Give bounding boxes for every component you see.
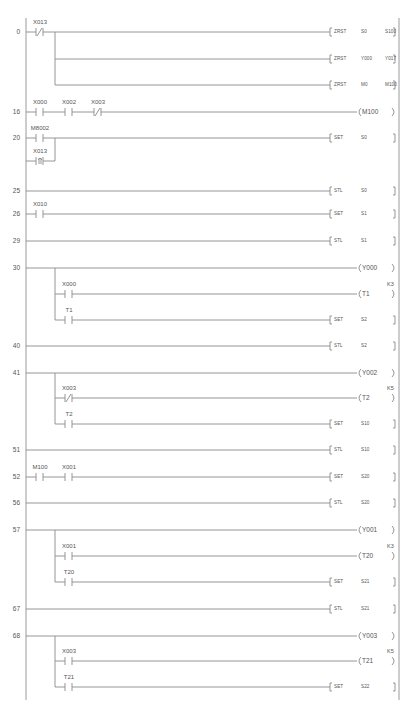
instruction-name: ZRST — [334, 82, 346, 87]
instruction-operand: S21 — [361, 606, 369, 611]
instruction-open-bracket-icon — [330, 28, 332, 36]
coil-close-paren-icon — [392, 526, 394, 534]
coil-open-paren-icon — [359, 264, 361, 272]
instruction-operand: S2 — [361, 317, 367, 322]
instruction-open-bracket-icon — [330, 342, 332, 350]
coil-operand: Y000 — [362, 264, 377, 271]
coil-operand: T1 — [362, 290, 370, 297]
contact-label: X003 — [62, 385, 76, 391]
instruction-operand: S100 — [385, 29, 396, 34]
contact-label: X003 — [91, 99, 105, 105]
step-number: 52 — [0, 473, 20, 480]
contact-m100-contact-icon — [36, 473, 43, 481]
contact-m8002-contact-icon — [36, 134, 43, 142]
contact-label: T1 — [65, 307, 72, 313]
instruction-operand: S1 — [361, 211, 367, 216]
contact-x001-contact-icon — [65, 552, 72, 560]
timer-constant: K5 — [387, 648, 394, 654]
instruction-close-bracket-icon — [393, 446, 395, 454]
contact-label: X013 — [33, 148, 47, 154]
ladder-diagram: 0X013ZRSTS0S100ZRSTY000Y017ZRSTM0M10016X… — [0, 0, 412, 715]
instruction-operand: S22 — [361, 684, 369, 689]
instruction-open-bracket-icon — [330, 499, 332, 507]
contact-label: X013 — [33, 19, 47, 25]
coil-open-paren-icon — [359, 290, 361, 298]
instruction-operand: S10 — [361, 447, 369, 452]
instruction-close-bracket-icon — [393, 237, 395, 245]
step-number: 56 — [0, 499, 20, 506]
contact-x013-pulse-arrow-icon — [38, 158, 42, 164]
contact-x003-nc-slash-icon — [95, 108, 100, 116]
instruction-open-bracket-icon — [330, 81, 332, 89]
timer-constant: K3 — [387, 281, 394, 287]
coil-operand: T21 — [362, 657, 373, 664]
instruction-name: SET — [334, 474, 343, 479]
contact-label: T20 — [64, 569, 74, 575]
coil-operand: Y002 — [362, 369, 377, 376]
coil-operand: T20 — [362, 552, 373, 559]
step-number: 0 — [0, 28, 20, 35]
instruction-close-bracket-icon — [393, 134, 395, 142]
instruction-name: STL — [334, 238, 343, 243]
contact-t2-contact-icon — [65, 420, 72, 428]
contact-label: M100 — [32, 464, 47, 470]
coil-close-paren-icon — [392, 632, 394, 640]
step-number: 51 — [0, 446, 20, 453]
contact-label: X001 — [62, 464, 76, 470]
instruction-operand: M100 — [385, 82, 397, 87]
instruction-open-bracket-icon — [330, 55, 332, 63]
contact-label: M8002 — [31, 125, 49, 131]
instruction-close-bracket-icon — [393, 499, 395, 507]
instruction-name: ZRST — [334, 56, 346, 61]
instruction-name: SET — [334, 421, 343, 426]
coil-open-paren-icon — [359, 632, 361, 640]
instruction-close-bracket-icon — [393, 316, 395, 324]
contact-label: X010 — [33, 201, 47, 207]
step-number: 26 — [0, 210, 20, 217]
instruction-open-bracket-icon — [330, 605, 332, 613]
instruction-close-bracket-icon — [393, 187, 395, 195]
instruction-name: SET — [334, 135, 343, 140]
contact-t20-contact-icon — [65, 578, 72, 586]
coil-operand: Y001 — [362, 526, 377, 533]
coil-operand: M100 — [362, 108, 378, 115]
step-number: 68 — [0, 632, 20, 639]
coil-open-paren-icon — [359, 369, 361, 377]
instruction-open-bracket-icon — [330, 446, 332, 454]
contact-x002-contact-icon — [65, 108, 72, 116]
instruction-name: ZRST — [334, 29, 346, 34]
contact-label: X000 — [33, 99, 47, 105]
coil-open-paren-icon — [359, 526, 361, 534]
instruction-close-bracket-icon — [393, 578, 395, 586]
coil-close-paren-icon — [392, 369, 394, 377]
instruction-name: SET — [334, 211, 343, 216]
instruction-name: STL — [334, 447, 343, 452]
timer-constant: K5 — [387, 385, 394, 391]
instruction-open-bracket-icon — [330, 420, 332, 428]
instruction-open-bracket-icon — [330, 187, 332, 195]
instruction-open-bracket-icon — [330, 473, 332, 481]
contact-label: X002 — [62, 99, 76, 105]
instruction-open-bracket-icon — [330, 316, 332, 324]
instruction-name: STL — [334, 606, 343, 611]
instruction-operand: S0 — [361, 29, 367, 34]
instruction-operand: S0 — [361, 135, 367, 140]
coil-close-paren-icon — [392, 264, 394, 272]
instruction-operand: Y017 — [385, 56, 396, 61]
ladder-wires — [0, 0, 412, 715]
instruction-operand: S2 — [361, 343, 367, 348]
contact-t1-contact-icon — [65, 316, 72, 324]
instruction-name: STL — [334, 500, 343, 505]
contact-label: X003 — [62, 648, 76, 654]
step-number: 20 — [0, 134, 20, 141]
coil-operand: T2 — [362, 394, 370, 401]
contact-x001-contact-icon — [65, 473, 72, 481]
coil-open-paren-icon — [359, 108, 361, 116]
coil-operand: Y003 — [362, 632, 377, 639]
step-number: 40 — [0, 342, 20, 349]
contact-x013-nc-slash-icon — [37, 28, 42, 36]
instruction-operand: Y000 — [361, 56, 372, 61]
instruction-operand: S21 — [361, 579, 369, 584]
instruction-operand: S20 — [361, 500, 369, 505]
instruction-operand: S0 — [361, 188, 367, 193]
